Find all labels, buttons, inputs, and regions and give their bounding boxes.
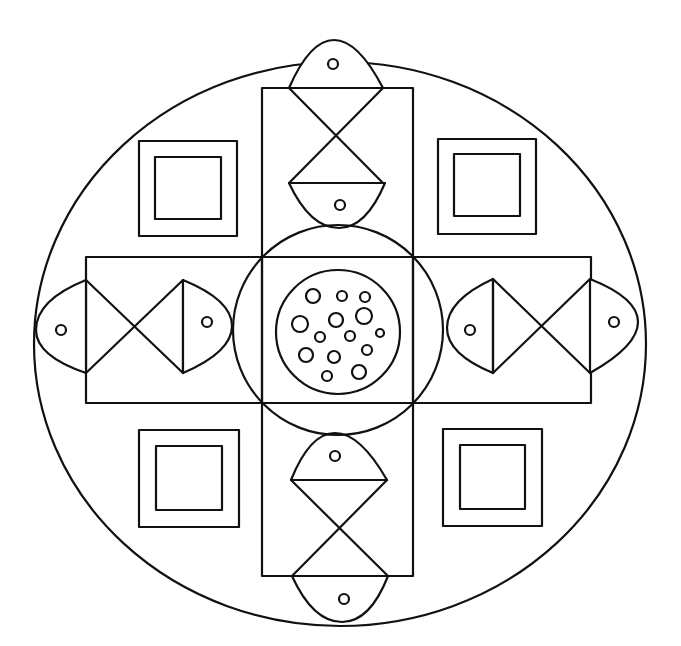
bowtie-bottom <box>291 480 388 576</box>
fish-top-outer <box>289 40 383 88</box>
dotted-circle <box>276 270 400 394</box>
bowtie-left <box>86 280 183 373</box>
center-square <box>262 257 413 403</box>
bowtie-top <box>289 88 383 183</box>
mandala-drawing <box>0 0 681 646</box>
bowtie-right <box>493 279 590 373</box>
outer-circle <box>34 62 646 626</box>
fish-bottom-outer <box>292 576 388 622</box>
fish-right-outer <box>590 279 638 373</box>
cross-vertical-rect <box>262 88 413 576</box>
cross-horizontal-rect <box>86 257 591 403</box>
fish-left-inner <box>183 280 232 373</box>
corner-square-bottom-right <box>443 429 542 526</box>
corner-square-top-left <box>139 141 237 236</box>
fish-left-outer <box>36 280 86 373</box>
fish-right-inner <box>447 279 493 373</box>
corner-square-bottom-left <box>139 430 239 527</box>
fish-bottom-inner <box>291 433 387 480</box>
corner-square-top-right <box>438 139 536 234</box>
fish-top-inner <box>289 183 385 228</box>
dots <box>292 289 384 381</box>
mandala-svg <box>0 0 681 646</box>
